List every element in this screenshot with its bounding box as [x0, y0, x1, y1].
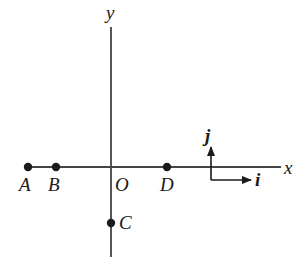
- point-b: [52, 163, 60, 171]
- point-a: [24, 163, 32, 171]
- point-c: [107, 219, 115, 227]
- j-vector-label: j: [202, 125, 211, 146]
- point-b-label: B: [48, 174, 60, 195]
- point-d-label: D: [159, 174, 174, 195]
- y-axis-label: y: [104, 2, 115, 23]
- point-d: [163, 163, 171, 171]
- coordinate-diagram: y x O A B D C j i: [0, 0, 299, 268]
- point-a-label: A: [17, 174, 31, 195]
- origin-label: O: [115, 174, 129, 195]
- point-c-label: C: [119, 212, 132, 233]
- x-axis-label: x: [283, 157, 293, 178]
- i-vector-label: i: [255, 169, 261, 190]
